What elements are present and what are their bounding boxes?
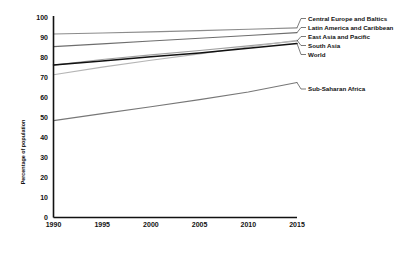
y-tick-100: 100 <box>36 14 48 21</box>
series-line-sub-saharan-africa <box>54 83 298 121</box>
y-tick-60: 60 <box>40 94 48 101</box>
x-axis-tick-labels: 199019952000200520102015 <box>46 221 305 228</box>
line-chart: 0102030405060708090100 19901995200020052… <box>0 0 412 255</box>
y-tick-50: 50 <box>40 114 48 121</box>
x-tick-2010: 2010 <box>241 221 257 228</box>
series-callout-labels: Central Europe and BalticsLatin America … <box>308 15 394 93</box>
x-tick-2005: 2005 <box>192 221 208 228</box>
series-line-south-asia <box>54 40 298 74</box>
leader-line-world <box>297 43 306 54</box>
y-tick-40: 40 <box>40 134 48 141</box>
series-label-central-europe-and-baltics: Central Europe and Baltics <box>308 15 388 22</box>
y-axis-title: Percentage of population <box>20 120 26 185</box>
x-tick-2015: 2015 <box>289 221 305 228</box>
leader-line-south-asia <box>297 40 306 45</box>
series-label-sub-saharan-africa: Sub-Saharan Africa <box>308 85 366 92</box>
y-tick-30: 30 <box>40 154 48 161</box>
x-tick-1995: 1995 <box>94 221 110 228</box>
callout-leader-lines <box>297 19 306 90</box>
series-label-south-asia: South Asia <box>308 42 341 49</box>
leader-line-latin-america-and-caribbean <box>297 28 306 33</box>
y-tick-10: 10 <box>40 194 48 201</box>
chart-axes <box>54 16 298 218</box>
leader-line-central-europe-and-baltics <box>297 19 306 28</box>
y-tick-20: 20 <box>40 174 48 181</box>
series-label-world: World <box>308 51 326 58</box>
series-label-latin-america-and-caribbean: Latin America and Caribbean <box>308 24 394 31</box>
series-line-world <box>54 43 298 64</box>
x-tick-1990: 1990 <box>46 221 62 228</box>
y-axis-tick-labels: 0102030405060708090100 <box>36 14 48 222</box>
series-lines <box>54 28 298 121</box>
series-label-east-asia-and-pacific: East Asia and Pacific <box>308 33 371 40</box>
y-tick-80: 80 <box>40 54 48 61</box>
leader-line-east-asia-and-pacific <box>297 37 306 42</box>
y-tick-90: 90 <box>40 34 48 41</box>
y-tick-70: 70 <box>40 74 48 81</box>
leader-line-sub-saharan-africa <box>297 83 306 89</box>
series-line-central-europe-and-baltics <box>54 28 298 34</box>
chart-canvas: 0102030405060708090100 19901995200020052… <box>0 0 412 255</box>
x-tick-2000: 2000 <box>143 221 159 228</box>
